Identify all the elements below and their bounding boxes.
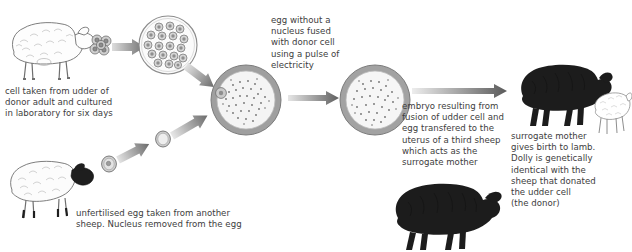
arrow-enucleated-to-fused	[168, 108, 212, 143]
embryo-cell	[338, 63, 412, 137]
surrogate-sheep-figure	[386, 178, 504, 252]
fused-egg-cell	[209, 63, 283, 137]
arrow-egg-to-enucleated	[114, 137, 153, 168]
donor-sheep-figure	[4, 12, 100, 84]
caption-donor-cell: cell taken from udder of donor adult and…	[5, 86, 145, 120]
arrow-embryo-to-surrogate	[412, 83, 508, 99]
caption-birth: surrogate mother gives birth to lamb. Do…	[511, 131, 625, 209]
caption-unfertilised-egg: unfertilised egg taken from another shee…	[76, 208, 296, 230]
lamb-figure	[592, 88, 632, 136]
unfertilised-egg-cell	[100, 155, 118, 173]
arrow-fused-to-embryo	[288, 90, 340, 106]
caption-embryo-transfer: embryo resulting from fusion of udder ce…	[402, 101, 520, 168]
